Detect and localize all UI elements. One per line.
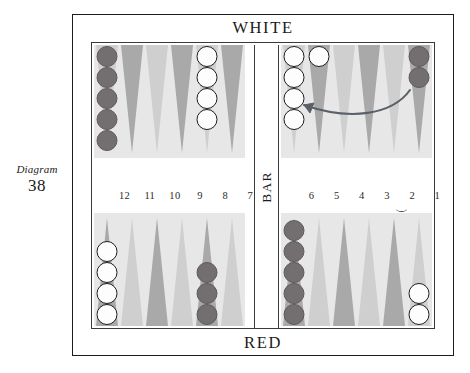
point-22[interactable] — [356, 213, 381, 326]
checker-dark[interactable] — [96, 88, 117, 109]
point-triangle-21 — [333, 218, 355, 326]
checker-white[interactable] — [96, 241, 117, 262]
checker-stack-point-8[interactable] — [197, 46, 218, 130]
checker-dark[interactable] — [96, 67, 117, 88]
point-number-5: 5 — [324, 187, 349, 205]
point-13[interactable] — [94, 213, 119, 326]
point-21[interactable] — [331, 213, 356, 326]
checker-dark[interactable] — [283, 241, 304, 262]
checker-white[interactable] — [96, 283, 117, 304]
checker-dark[interactable] — [409, 67, 430, 88]
checker-stack-point-17[interactable] — [197, 262, 218, 325]
checker-dark[interactable] — [197, 262, 218, 283]
point-1[interactable] — [407, 45, 432, 158]
player-label-red: RED — [73, 333, 453, 353]
point-number-6: 6 — [299, 187, 324, 205]
checker-white[interactable] — [197, 46, 218, 67]
checker-white[interactable] — [283, 88, 304, 109]
point-triangle-4 — [333, 45, 355, 153]
point-10[interactable] — [144, 45, 169, 158]
point-triangle-2 — [383, 45, 405, 153]
point-7[interactable] — [220, 45, 245, 158]
point-numbers-right: 654321 — [299, 187, 450, 205]
point-triangle-10 — [146, 45, 168, 153]
checker-dark[interactable] — [96, 109, 117, 130]
diagram-caption-number: 38 — [4, 176, 70, 195]
checker-white[interactable] — [197, 67, 218, 88]
quadrant-bottom-left — [94, 213, 245, 326]
point-numbers-left: 121110987 — [112, 187, 263, 205]
checker-dark[interactable] — [96, 46, 117, 67]
point-number-11: 11 — [137, 187, 162, 205]
quadrant-top-right — [281, 45, 432, 158]
point-19[interactable] — [281, 213, 306, 326]
point-11[interactable] — [119, 45, 144, 158]
checker-white[interactable] — [283, 67, 304, 88]
checker-stack-point-24[interactable] — [409, 283, 430, 325]
checker-stack-point-5[interactable] — [308, 46, 329, 67]
point-number-4: 4 — [349, 187, 374, 205]
point-number-7: 7 — [238, 187, 263, 205]
checker-stack-point-13[interactable] — [96, 241, 117, 325]
point-triangle-3 — [358, 45, 380, 153]
checker-white[interactable] — [96, 262, 117, 283]
point-triangle-23 — [383, 218, 405, 326]
checker-dark[interactable] — [283, 262, 304, 283]
point-triangle-16 — [171, 218, 193, 326]
point-24[interactable] — [407, 213, 432, 326]
quadrant-bottom-right — [281, 213, 432, 326]
point-triangle-15 — [146, 218, 168, 326]
point-3[interactable] — [356, 45, 381, 158]
point-number-12: 12 — [112, 187, 137, 205]
checker-white[interactable] — [283, 109, 304, 130]
checker-white[interactable] — [197, 88, 218, 109]
point-number-10: 10 — [162, 187, 187, 205]
checker-dark[interactable] — [197, 304, 218, 325]
point-14[interactable] — [119, 213, 144, 326]
point-triangle-11 — [121, 45, 143, 153]
point-6[interactable] — [281, 45, 306, 158]
checker-stack-point-12[interactable] — [96, 46, 117, 151]
point-triangle-9 — [171, 45, 193, 153]
checker-white[interactable] — [197, 109, 218, 130]
checker-dark[interactable] — [283, 304, 304, 325]
checker-white[interactable] — [96, 304, 117, 325]
checker-dark[interactable] — [197, 283, 218, 304]
point-4[interactable] — [331, 45, 356, 158]
point-8[interactable] — [195, 45, 220, 158]
playing-surface: BAR 121110987 654321 — [91, 42, 435, 329]
diagram-caption: Diagram 38 — [4, 163, 70, 195]
checker-white[interactable] — [409, 283, 430, 304]
point-number-3: 3 — [374, 187, 399, 205]
point-12[interactable] — [94, 45, 119, 158]
point-number-9: 9 — [187, 187, 212, 205]
quadrant-top-left — [94, 45, 245, 158]
checker-stack-point-6[interactable] — [283, 46, 304, 130]
point-16[interactable] — [169, 213, 194, 326]
point-number-8: 8 — [213, 187, 238, 205]
point-2[interactable] — [382, 45, 407, 158]
checker-dark[interactable] — [283, 283, 304, 304]
point-18[interactable] — [220, 213, 245, 326]
point-17[interactable] — [195, 213, 220, 326]
point-triangle-18 — [221, 218, 243, 326]
checker-white[interactable] — [409, 304, 430, 325]
player-label-white: WHITE — [73, 18, 453, 38]
point-9[interactable] — [169, 45, 194, 158]
point-23[interactable] — [382, 213, 407, 326]
checker-stack-point-19[interactable] — [283, 220, 304, 325]
point-15[interactable] — [144, 213, 169, 326]
checker-stack-point-1[interactable] — [409, 46, 430, 88]
point-triangle-14 — [121, 218, 143, 326]
checker-dark[interactable] — [283, 220, 304, 241]
point-triangle-22 — [358, 218, 380, 326]
diagram-caption-word: Diagram — [4, 163, 70, 176]
point-20[interactable] — [306, 213, 331, 326]
checker-dark[interactable] — [409, 46, 430, 67]
point-5[interactable] — [306, 45, 331, 158]
checker-white[interactable] — [283, 46, 304, 67]
point-number-1: 1 — [425, 187, 450, 205]
checker-dark[interactable] — [96, 130, 117, 151]
checker-white[interactable] — [308, 46, 329, 67]
point-triangle-20 — [308, 218, 330, 326]
